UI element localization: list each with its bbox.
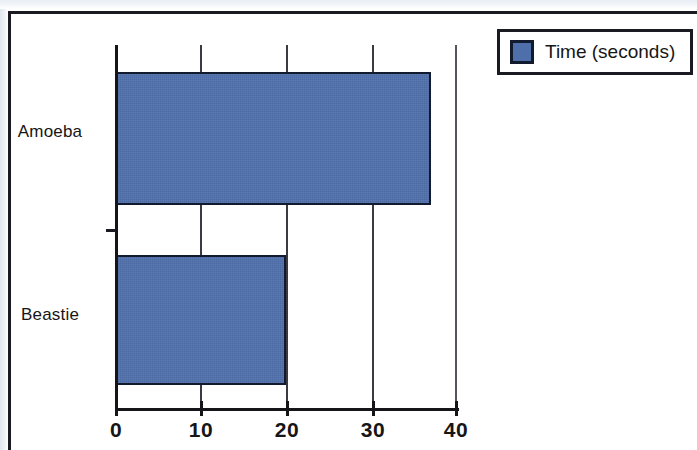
category-axis-tick xyxy=(106,229,116,232)
value-tick-30 xyxy=(372,401,375,416)
gridline-40 xyxy=(455,45,457,408)
legend-color-swatch-time xyxy=(510,40,534,64)
legend-label-time: Time (seconds) xyxy=(545,41,675,63)
bar-amoeba[interactable] xyxy=(115,72,431,205)
plot-area xyxy=(115,45,457,408)
scanned-page-background: 0 10 20 30 40 Amoeba Beastie Time (secon… xyxy=(0,0,697,450)
category-axis-line xyxy=(115,45,118,411)
value-tick-10 xyxy=(200,401,203,416)
category-label-group: Amoeba Beastie xyxy=(0,0,105,450)
bar-beastie[interactable] xyxy=(115,255,286,385)
value-tick-label-10: 10 xyxy=(171,418,231,442)
value-tick-label-30: 30 xyxy=(343,418,403,442)
value-tick-label-40: 40 xyxy=(426,418,486,442)
value-tick-0 xyxy=(115,401,118,416)
category-label-beastie: Beastie xyxy=(0,305,105,325)
chart-legend: Time (seconds) xyxy=(497,29,693,75)
value-tick-20 xyxy=(286,401,289,416)
category-label-amoeba: Amoeba xyxy=(0,122,105,142)
value-tick-label-20: 20 xyxy=(257,418,317,442)
value-tick-40 xyxy=(455,401,458,416)
